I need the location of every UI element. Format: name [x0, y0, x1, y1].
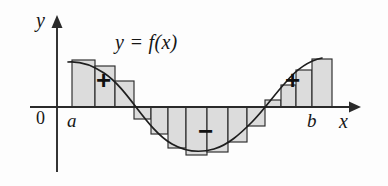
figure-canvas	[0, 0, 388, 186]
integral-net-area-figure: y x 0 a b y = f(x) + − +	[0, 0, 388, 186]
riemann-bar	[151, 107, 168, 134]
negative-region-sign: −	[198, 118, 213, 144]
y-axis-arrowhead	[52, 15, 63, 28]
riemann-bar	[312, 59, 332, 107]
function-equation-label: y = f(x)	[115, 32, 178, 52]
y-axis-label: y	[36, 10, 45, 30]
riemann-bar	[228, 107, 247, 142]
upper-limit-label: b	[307, 111, 317, 130]
x-axis-label: x	[339, 111, 348, 131]
positive-region-sign-right: +	[285, 67, 300, 93]
x-axis-arrowhead	[349, 102, 361, 113]
riemann-bar	[168, 107, 186, 148]
positive-region-sign-left: +	[96, 67, 111, 93]
lower-limit-label: a	[67, 111, 77, 130]
origin-label: 0	[36, 109, 45, 127]
